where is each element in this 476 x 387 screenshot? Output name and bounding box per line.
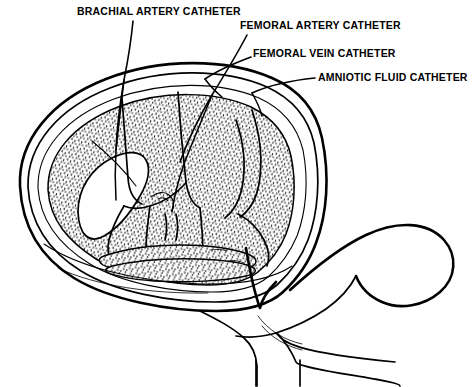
cervix-and-vagina: [200, 311, 400, 386]
label-amniotic-fluid-catheter: AMNIOTIC FLUID CATHETER: [318, 71, 468, 83]
fetal-hindlimbs: [99, 245, 256, 282]
anatomical-diagram: BRACHIAL ARTERY CATHETER FEMORAL ARTERY …: [0, 0, 476, 387]
label-brachial-artery-catheter: BRACHIAL ARTERY CATHETER: [77, 5, 241, 17]
label-group: BRACHIAL ARTERY CATHETER FEMORAL ARTERY …: [77, 5, 468, 83]
label-femoral-artery-catheter: FEMORAL ARTERY CATHETER: [240, 19, 401, 31]
figure-canvas: BRACHIAL ARTERY CATHETER FEMORAL ARTERY …: [0, 0, 476, 387]
label-femoral-vein-catheter: FEMORAL VEIN CATHETER: [253, 47, 396, 59]
